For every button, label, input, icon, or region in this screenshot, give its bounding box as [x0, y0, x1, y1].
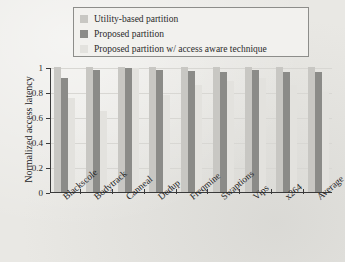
bar: [322, 92, 329, 192]
bar-group: [54, 68, 75, 192]
y-tick-label: 0.6: [32, 113, 43, 123]
y-tick-label: 0.2: [32, 163, 43, 173]
bar-group: [276, 68, 297, 192]
legend-label-proposed: Proposed partition: [94, 29, 164, 39]
bar: [220, 72, 227, 192]
y-tick-label: 0.4: [32, 138, 43, 148]
y-tick-label: 0: [39, 188, 44, 198]
y-tick-label: 0.8: [32, 88, 43, 98]
bar: [54, 67, 61, 192]
x-axis-labels: BlackscoleBodytrackCannealDedupFreqmineS…: [50, 194, 332, 254]
chart-legend: Utility-based partition Proposed partiti…: [73, 7, 309, 57]
legend-item-utility-based: Utility-based partition: [80, 12, 303, 26]
bar: [181, 67, 188, 192]
bar: [132, 68, 139, 192]
legend-swatch-proposed: [80, 30, 88, 38]
bar: [163, 95, 170, 193]
x-tick-mark: [303, 189, 304, 194]
bar-group: [181, 68, 202, 192]
x-tick-mark: [207, 189, 208, 194]
legend-label-utility-based: Utility-based partition: [94, 14, 178, 24]
x-tick-mark: [271, 189, 272, 194]
bar: [149, 67, 156, 192]
y-axis-ticks: 00.20.40.60.81: [0, 68, 50, 193]
x-tick-mark: [176, 189, 177, 194]
bar: [195, 85, 202, 193]
bar: [276, 67, 283, 192]
bar: [259, 78, 266, 192]
legend-swatch-access-aware: [80, 45, 88, 53]
x-tick-mark: [80, 189, 81, 194]
bar-group: [149, 68, 170, 192]
bar: [283, 72, 290, 192]
x-tick-mark: [112, 189, 113, 194]
bar: [290, 85, 297, 193]
bar: [68, 98, 75, 192]
bar: [156, 70, 163, 193]
y-tick-label: 1: [39, 63, 44, 73]
legend-label-access-aware: Proposed partition w/ access aware techn…: [94, 44, 267, 54]
legend-item-proposed: Proposed partition: [80, 27, 303, 41]
legend-item-access-aware: Proposed partition w/ access aware techn…: [80, 42, 303, 56]
legend-swatch-utility-based: [80, 15, 88, 23]
x-tick-mark: [144, 189, 145, 194]
bar: [61, 78, 68, 192]
x-tick-mark: [239, 189, 240, 194]
bar: [100, 111, 107, 192]
bar: [315, 72, 322, 192]
bar-group: [308, 68, 329, 192]
bar: [227, 81, 234, 192]
figure-canvas: Utility-based partition Proposed partiti…: [0, 0, 345, 262]
bar: [188, 71, 195, 192]
bar: [308, 67, 315, 192]
